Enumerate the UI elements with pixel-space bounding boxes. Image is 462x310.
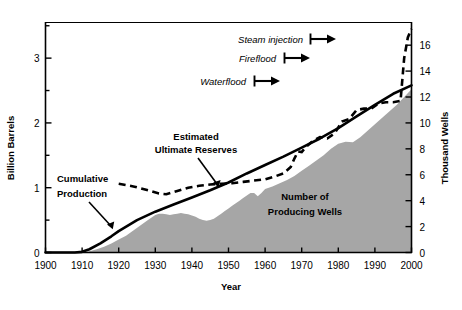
y-right-tick-label: 16 [420, 40, 432, 51]
y-axis-left-title: Billion Barrels [5, 116, 16, 180]
x-tick-label: 1930 [144, 260, 167, 271]
y-right-tick-label: 4 [420, 196, 426, 207]
x-tick-label: 1910 [71, 260, 94, 271]
y-left-tick-label: 0 [34, 248, 40, 259]
y-left-tick-label: 1 [34, 183, 40, 194]
producing-wells-label-line1: Number of [281, 191, 329, 202]
cumulative-production-label-line1: Cumulative [57, 173, 108, 184]
x-tick-label: 1970 [291, 260, 314, 271]
cumulative-production-label-line2: Production [57, 188, 107, 199]
x-tick-label: 1980 [327, 260, 350, 271]
y-right-tick-label: 2 [420, 222, 426, 233]
x-tick-label: 1920 [108, 260, 131, 271]
y-right-tick-label: 12 [420, 92, 432, 103]
y-right-tick-label: 10 [420, 118, 432, 129]
y-right-tick-label: 8 [420, 144, 426, 155]
y-left-tick-label: 2 [34, 118, 40, 129]
y-axis-right-title: Thousand Wells [439, 112, 450, 185]
y-right-tick-label: 6 [420, 170, 426, 181]
steam-injection-label: Steam injection [238, 34, 303, 45]
x-tick-label: 2000 [400, 260, 423, 271]
x-tick-label: 1950 [217, 260, 240, 271]
producing-wells-label-line2: Producing Wells [268, 206, 342, 217]
chart-container: 1900191019201930194019501960197019801990… [0, 0, 462, 310]
estimated-ultimate-reserves-label-line2: Ultimate Reserves [155, 144, 237, 155]
waterflood-label: Waterflood [200, 76, 246, 87]
x-tick-label: 1940 [181, 260, 204, 271]
y-right-tick-label: 0 [420, 248, 426, 259]
chart-svg: 1900191019201930194019501960197019801990… [0, 0, 462, 310]
y-left-tick-label: 3 [34, 53, 40, 64]
y-right-tick-label: 14 [420, 66, 432, 77]
x-axis-title: Year [221, 281, 241, 292]
estimated-ultimate-reserves-label-line1: Estimated [173, 131, 219, 142]
x-axis-tick-labels: 1900191019201930194019501960197019801990… [34, 260, 423, 271]
fireflood-label: Fireflood [239, 53, 277, 64]
x-tick-label: 1990 [364, 260, 387, 271]
x-tick-label: 1960 [254, 260, 277, 271]
x-tick-label: 1900 [34, 260, 57, 271]
